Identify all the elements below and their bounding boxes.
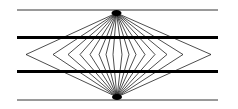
ray-chevron [117,13,212,97]
top-focal-point [112,10,122,16]
ray-chevron [117,13,168,97]
converging-rays [26,13,211,97]
ray-chevron [53,13,117,97]
ray-chevron [117,13,137,97]
ray-chevron [117,13,184,97]
ray-chevron [26,13,117,97]
bottom-focal-point [112,94,122,100]
illusion-figure [0,0,238,109]
ray-chevron [117,13,123,97]
ray-chevron [68,13,117,97]
horizontal-lines [17,10,218,100]
